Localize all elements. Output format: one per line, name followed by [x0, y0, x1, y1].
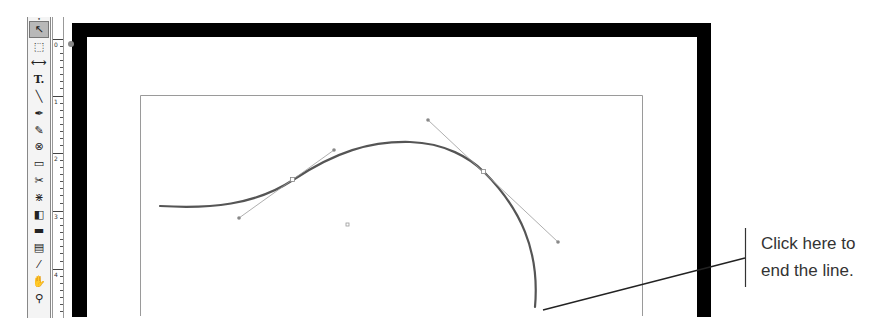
center-point	[346, 223, 349, 226]
ruler-label-2: 2	[54, 155, 58, 162]
free-transform-tool-icon[interactable]: ⋇	[29, 189, 49, 206]
hand-tool-icon[interactable]: ✋	[29, 273, 49, 290]
ruler-label-3: 3	[54, 213, 58, 220]
frame-corner-point[interactable]	[68, 41, 74, 47]
callout-leader-line	[543, 258, 745, 310]
handle-points[interactable]	[237, 118, 560, 244]
callout-line-1: Click here to	[761, 230, 855, 257]
pen-tool-icon[interactable]: ✒	[29, 105, 49, 122]
note-tool-icon[interactable]: ▤	[29, 239, 49, 256]
page-frame	[72, 23, 711, 317]
bezier-path[interactable]	[160, 142, 536, 307]
margin-guides	[141, 96, 643, 317]
toolbox: • ↖ ⬚ ⟷ T. ╲ ✒ ✎ ⊗ ▭ ✂ ⋇ ◧ ▬ ▤ ⁄ ✋ ⚲	[27, 17, 51, 318]
rectangle-tool-icon[interactable]: ▭	[29, 155, 49, 172]
vertical-ruler[interactable]: 0 1 2 3 4	[52, 17, 64, 318]
eyedropper-tool-icon[interactable]: ⁄	[29, 256, 49, 273]
gradient-tool-icon[interactable]: ◧	[29, 206, 49, 223]
gradient-feather-tool-icon[interactable]: ▬	[29, 223, 49, 240]
document-canvas[interactable]	[0, 0, 890, 332]
zoom-tool-icon[interactable]: ⚲	[29, 290, 49, 307]
position-tool-icon[interactable]: ⟷	[29, 55, 49, 72]
ellipse-frame-tool-icon[interactable]: ⊗	[29, 139, 49, 156]
type-tool-icon[interactable]: T.	[29, 71, 49, 88]
scissors-tool-icon[interactable]: ✂	[29, 172, 49, 189]
anchor-points[interactable]	[291, 170, 486, 182]
line-tool-icon[interactable]: ╲	[29, 88, 49, 105]
direct-selection-tool-icon[interactable]: ⬚	[29, 38, 49, 55]
ruler-label-4: 4	[54, 271, 58, 278]
callout-line-2: end the line.	[761, 257, 855, 284]
selection-tool-icon[interactable]: ↖	[29, 21, 49, 38]
direction-handles[interactable]	[239, 120, 558, 242]
ruler-label-1: 1	[54, 98, 58, 105]
ruler-label-0: 0	[54, 41, 58, 48]
callout-text: Click here to end the line.	[761, 230, 855, 284]
pencil-tool-icon[interactable]: ✎	[29, 122, 49, 139]
